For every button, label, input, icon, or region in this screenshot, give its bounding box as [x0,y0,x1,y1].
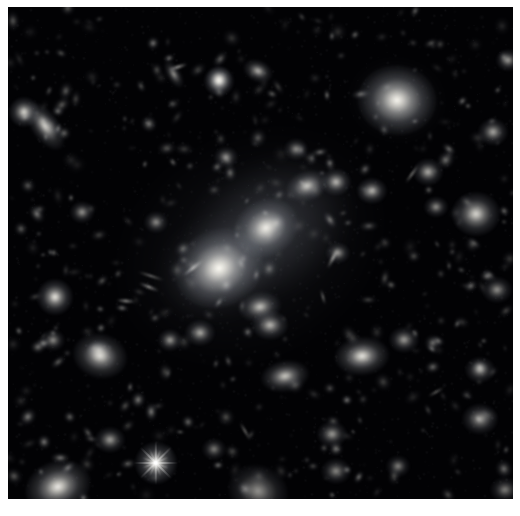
source-core [389,327,419,353]
source-core [436,268,447,280]
source-core [72,18,82,26]
source-core [154,305,175,322]
faint-galaxy [409,346,423,356]
faint-galaxy [83,202,98,216]
source-core [280,334,289,343]
source-core [259,207,270,218]
source-core [8,11,20,31]
source-core [377,122,391,138]
faint-galaxy [475,277,490,296]
faint-galaxy [64,266,84,278]
faint-galaxy [222,354,233,368]
source-core [333,337,342,347]
source-core [271,461,290,482]
faint-galaxy [58,80,75,101]
source-core [357,178,387,204]
source-core [482,277,512,303]
galaxy-22 [284,138,308,160]
source-core [318,170,325,175]
faint-galaxy [62,409,78,425]
source-core [327,490,336,499]
source-core [12,220,30,239]
source-core [206,92,215,101]
source-core [353,469,366,484]
source-core [237,288,284,325]
source-core [251,267,261,283]
source-core [386,455,410,477]
faint-galaxy [407,37,419,48]
source-core [320,231,332,244]
source-core [127,145,137,151]
faint-galaxy [352,135,361,146]
source-core [324,163,337,173]
faint-galaxy [82,443,98,462]
source-core [158,329,182,351]
source-core [276,454,288,464]
diffraction-spike-ray [155,441,157,485]
source-core [119,458,137,470]
source-core [18,176,39,196]
source-core [446,247,457,258]
faint-galaxy [379,268,391,287]
faint-galaxy [175,430,184,435]
faint-galaxy [253,400,266,413]
faint-galaxy [29,340,46,355]
faint-galaxy [307,462,318,470]
source-core [83,338,103,357]
faint-galaxy [493,16,509,34]
source-core [463,236,481,255]
source-core [243,358,256,369]
source-core [148,312,161,324]
source-core [250,178,270,198]
galaxy-15 [462,404,498,435]
faint-galaxy [209,160,225,175]
source-core [59,460,77,477]
faint-galaxy [307,151,317,165]
faint-galaxy [209,48,229,69]
source-core [135,78,148,93]
source-core [150,427,169,445]
faint-galaxy [422,333,443,354]
faint-galaxy [446,397,463,415]
source-core [230,88,242,106]
source-core [453,212,469,231]
source-core [77,453,98,474]
source-core [501,380,513,400]
source-core [83,16,96,27]
faint-galaxy [338,430,355,442]
faint-galaxy [339,322,360,345]
source-core [325,415,340,428]
faint-galaxy [372,370,395,394]
faint-galaxy [470,357,490,376]
faint-galaxy [279,314,288,324]
faint-galaxy [102,469,116,481]
faint-galaxy [250,178,270,198]
source-core [422,290,430,296]
source-core [33,276,39,283]
source-core [475,277,490,296]
faint-galaxy [261,96,281,113]
faint-galaxy [51,248,59,257]
source-core [252,311,288,340]
source-core [456,265,466,274]
source-core [68,328,132,385]
source-core [443,51,461,69]
source-core [15,456,27,468]
source-core [451,248,466,267]
source-core [114,470,123,478]
faint-galaxy [12,83,21,91]
source-core [247,126,269,149]
source-core [378,258,385,267]
faint-galaxy [27,291,44,302]
source-core [51,248,59,257]
faint-galaxy [94,321,107,334]
faint-galaxy [276,454,288,464]
source-core [26,202,47,225]
source-core [110,259,123,267]
faint-galaxy [68,193,74,202]
source-core [460,67,468,74]
source-core [54,47,68,59]
faint-galaxy [311,16,325,26]
source-core [234,255,248,272]
galaxy-13 [389,327,419,353]
